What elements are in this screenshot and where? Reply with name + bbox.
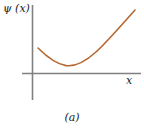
figure-caption: (a) (0, 112, 144, 123)
x-axis-label: x (126, 75, 132, 86)
figure-panel-a: ψ (x) x (a) (0, 0, 144, 135)
psi-curve (38, 10, 135, 66)
y-axis-label: ψ (x) (3, 3, 30, 14)
